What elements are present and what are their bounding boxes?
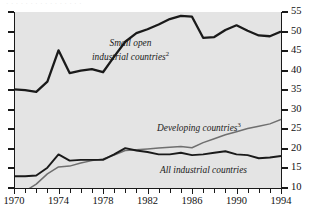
x-tick-minor	[248, 189, 249, 193]
y-tick-left	[8, 89, 14, 91]
x-tick-minor	[92, 189, 93, 193]
y-tick-label: 50	[291, 26, 302, 36]
series-label-footnote: 3	[237, 121, 240, 128]
series-label-text: Developing countries	[157, 123, 237, 133]
y-tick-right	[282, 187, 288, 189]
x-tick-major	[14, 189, 15, 194]
x-tick-minor	[225, 189, 226, 193]
x-tick-minor	[81, 189, 82, 193]
y-tick-left	[8, 148, 14, 150]
x-tick-major	[103, 189, 104, 194]
x-tick-major	[59, 189, 60, 194]
x-tick-label: 1974	[48, 195, 69, 206]
y-tick-right	[282, 128, 288, 130]
cut-off-caption-text: · · · · · · · · · · · · · · · ·	[0, 0, 315, 8]
series-label-all-industrial-countries: All industrial countries	[160, 165, 247, 176]
y-tick-label: 30	[291, 104, 302, 114]
x-tick-label: 1986	[182, 195, 203, 206]
x-tick-major	[237, 189, 238, 194]
y-tick-label: 55	[291, 6, 302, 16]
y-tick-right	[282, 167, 288, 169]
y-tick-right	[282, 148, 288, 150]
x-tick-minor	[259, 189, 260, 193]
x-tick-label: 1982	[137, 195, 158, 206]
y-tick-right	[282, 31, 288, 33]
y-tick-label: 20	[291, 143, 302, 153]
x-tick-minor	[136, 189, 137, 193]
series-label-text: All industrial countries	[160, 165, 247, 175]
cut-off-caption: · · · · · · · · · · · · · · · ·	[0, 0, 315, 8]
x-tick-minor	[125, 189, 126, 193]
y-tick-label: 15	[291, 162, 302, 172]
x-tick-label: 1990	[226, 195, 247, 206]
y-tick-left	[8, 31, 14, 33]
x-tick-minor	[181, 189, 182, 193]
series-label-small-open-industrial-countries: Small open industrial countries2	[92, 38, 169, 62]
y-tick-left	[8, 167, 14, 169]
y-axis-right	[281, 12, 282, 189]
x-tick-minor	[170, 189, 171, 193]
y-tick-right	[282, 109, 288, 111]
y-tick-label: 10	[291, 182, 302, 192]
series-label-line1: Small open	[110, 38, 152, 48]
y-tick-right	[282, 70, 288, 72]
x-tick-minor	[159, 189, 160, 193]
y-tick-left	[8, 70, 14, 72]
y-tick-left	[8, 109, 14, 111]
series-label-line2: industrial countries	[92, 52, 166, 62]
y-tick-label: 35	[291, 84, 302, 94]
x-tick-minor	[36, 189, 37, 193]
x-tick-minor	[114, 189, 115, 193]
x-tick-label: 1978	[93, 195, 114, 206]
series-label-developing-countries: Developing countries3	[157, 120, 241, 134]
y-tick-left	[8, 50, 14, 52]
x-tick-major	[148, 189, 149, 194]
chart-figure: · · · · · · · · · · · · · · · · 10152025…	[0, 0, 315, 215]
y-tick-right	[282, 50, 288, 52]
y-tick-right	[282, 11, 288, 13]
x-tick-minor	[47, 189, 48, 193]
y-tick-left	[8, 128, 14, 130]
y-tick-left	[8, 11, 14, 13]
y-tick-label: 45	[291, 45, 302, 55]
y-tick-label: 25	[291, 123, 302, 133]
x-tick-label: 1994	[271, 195, 292, 206]
x-tick-minor	[25, 189, 26, 193]
x-tick-minor	[214, 189, 215, 193]
y-tick-label: 40	[291, 65, 302, 75]
x-tick-minor	[203, 189, 204, 193]
x-tick-major	[281, 189, 282, 194]
x-tick-minor	[70, 189, 71, 193]
x-tick-major	[192, 189, 193, 194]
x-tick-minor	[270, 189, 271, 193]
y-tick-right	[282, 89, 288, 91]
x-tick-label: 1970	[4, 195, 25, 206]
y-axis-left	[14, 12, 15, 189]
series-label-footnote: 2	[166, 50, 169, 57]
